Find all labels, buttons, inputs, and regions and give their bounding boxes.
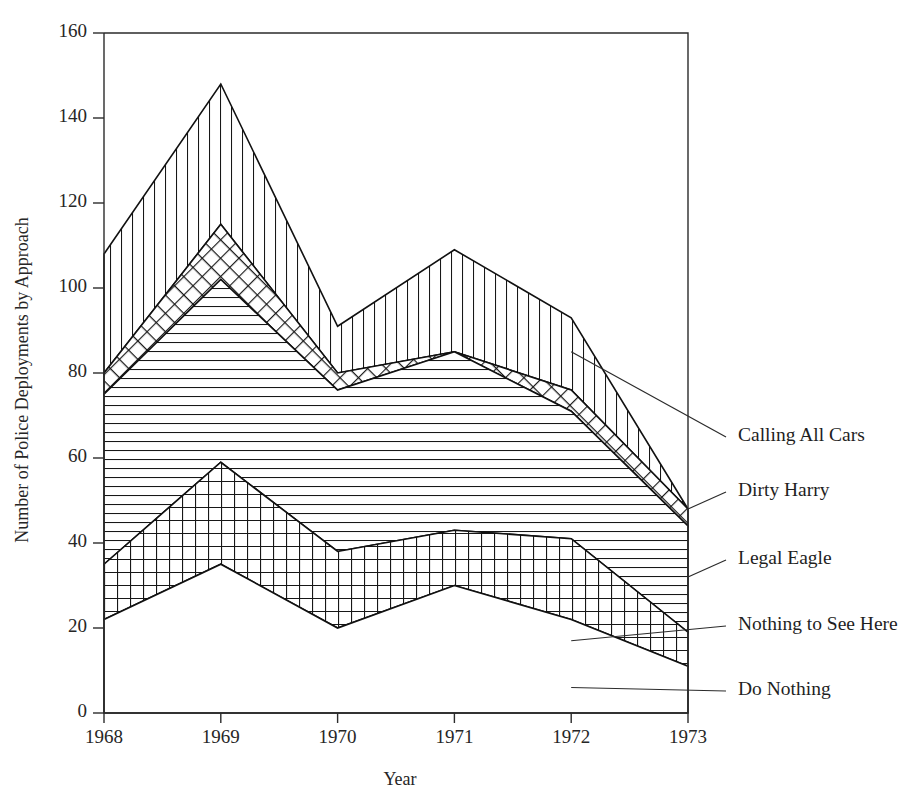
y-axis-title: Number of Police Deployments by Approach — [12, 217, 32, 542]
x-tick-label: 1968 — [85, 726, 123, 747]
x-tick-label: 1971 — [435, 726, 473, 747]
y-tick-label: 80 — [68, 360, 87, 381]
y-tick-label: 140 — [59, 105, 88, 126]
x-tick-label: 1973 — [669, 726, 707, 747]
x-tick-label: 1970 — [319, 726, 357, 747]
y-tick-label: 40 — [68, 530, 87, 551]
plot-areas — [104, 84, 688, 713]
legend-label-calling-all-cars: Calling All Cars — [738, 424, 865, 445]
legend-label-do-nothing: Do Nothing — [738, 678, 831, 699]
y-tick-label: 60 — [68, 445, 87, 466]
y-tick-label: 20 — [68, 615, 87, 636]
legend-label-legal-eagle: Legal Eagle — [738, 547, 832, 568]
y-tick-label: 120 — [59, 190, 88, 211]
x-tick-label: 1969 — [202, 726, 240, 747]
legend-label-nothing-to-see-here: Nothing to See Here — [738, 613, 898, 634]
legend-label-dirty-harry: Dirty Harry — [738, 479, 830, 500]
legend-leader-line — [688, 560, 726, 577]
y-tick-label: 160 — [59, 20, 88, 41]
y-tick-label: 100 — [59, 275, 88, 296]
area-chart: 0204060801001201401601968196919701971197… — [0, 0, 913, 809]
x-axis-title: Year — [383, 769, 416, 789]
y-tick-label: 0 — [78, 700, 88, 721]
x-tick-label: 1972 — [552, 726, 590, 747]
legend-leader-line — [688, 492, 726, 509]
chart-root: 0204060801001201401601968196919701971197… — [0, 0, 913, 809]
